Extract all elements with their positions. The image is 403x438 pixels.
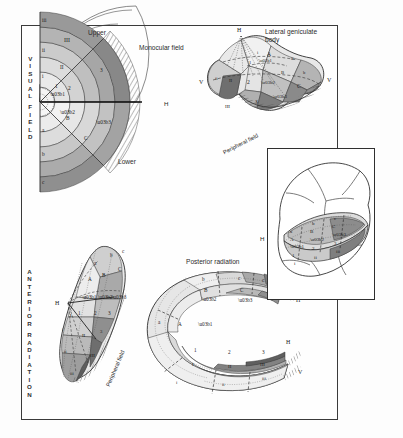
svg-text:A: A bbox=[267, 51, 271, 57]
caption-anterior-radiation: A N T E R I O R R A D I A T I O N bbox=[27, 268, 32, 398]
marker-h-anterior: H bbox=[55, 300, 60, 306]
marker-v-lgb-right: V bbox=[327, 77, 332, 83]
ar-letter: N bbox=[27, 391, 31, 398]
svg-text:\u03b1: \u03b1 bbox=[259, 58, 272, 63]
marker-h-lgb: H bbox=[237, 27, 242, 33]
svg-text:c: c bbox=[122, 248, 125, 254]
ar-letter: T bbox=[28, 283, 32, 290]
vf-letter: L bbox=[28, 92, 32, 99]
marker-v-posterior-bottom: V bbox=[298, 369, 303, 375]
svg-text:1: 1 bbox=[194, 347, 197, 353]
svg-text:b: b bbox=[202, 276, 205, 282]
svg-text:C: C bbox=[297, 83, 301, 89]
vf-letter: F bbox=[28, 103, 32, 110]
svg-text:iii: iii bbox=[262, 376, 267, 381]
svg-text:2: 2 bbox=[228, 349, 231, 355]
ar-letter: A bbox=[27, 268, 31, 275]
svg-text:\u03b3: \u03b3 bbox=[96, 119, 111, 125]
svg-text:2: 2 bbox=[94, 310, 97, 316]
svg-text:\u03b1: \u03b1 bbox=[198, 321, 213, 327]
vf-letter: L bbox=[28, 126, 32, 133]
vf-letter: D bbox=[28, 133, 32, 140]
ar-letter: O bbox=[27, 383, 32, 390]
svg-text:III: III bbox=[90, 353, 95, 358]
svg-text:iii: iii bbox=[42, 17, 47, 23]
svg-text:3: 3 bbox=[108, 310, 111, 316]
svg-text:b: b bbox=[42, 151, 45, 157]
vf-letter: U bbox=[28, 77, 32, 84]
label-upper: Upper bbox=[88, 29, 106, 37]
ar-letter: O bbox=[27, 312, 32, 319]
marker-v-lgb-left: V bbox=[199, 79, 204, 85]
vf-letter: E bbox=[28, 118, 32, 125]
svg-text:II: II bbox=[60, 64, 64, 70]
svg-text:A: A bbox=[88, 276, 92, 282]
svg-text:A: A bbox=[290, 237, 294, 242]
vf-letter: I bbox=[29, 111, 31, 118]
ar-letter: N bbox=[27, 275, 31, 282]
svg-text:\u03b2: \u03b2 bbox=[261, 80, 275, 85]
svg-text:II: II bbox=[228, 364, 232, 369]
ar-letter: R bbox=[27, 320, 31, 327]
svg-text:\u03b2: \u03b2 bbox=[98, 294, 113, 300]
lateral-geniculate-diagram: A ii b C B i 1 \u03b1 2 \u03b2 II ii III… bbox=[203, 30, 333, 150]
svg-text:3: 3 bbox=[100, 67, 103, 73]
svg-text:iii: iii bbox=[336, 249, 341, 254]
ar-letter: A bbox=[27, 339, 31, 346]
svg-text:III: III bbox=[64, 37, 70, 43]
svg-text:\u03b2: \u03b2 bbox=[310, 237, 324, 242]
svg-text:II: II bbox=[229, 78, 233, 83]
marker-h-visual-field: H bbox=[164, 100, 168, 107]
svg-text:II: II bbox=[82, 333, 86, 338]
svg-text:III: III bbox=[225, 104, 230, 109]
svg-text:III: III bbox=[260, 362, 265, 367]
vf-letter: A bbox=[28, 85, 32, 92]
svg-text:B: B bbox=[102, 272, 106, 278]
label-lateral-geniculate-body: Lateral geniculate body bbox=[265, 28, 325, 44]
svg-text:\u03b3: \u03b3 bbox=[112, 294, 127, 300]
pr-peripheral-hatch bbox=[288, 352, 300, 364]
svg-text:C: C bbox=[240, 287, 244, 293]
svg-text:C: C bbox=[118, 266, 122, 272]
svg-text:\u03b3: \u03b3 bbox=[332, 232, 346, 237]
svg-text:\u03b3: \u03b3 bbox=[238, 297, 253, 303]
svg-text:B: B bbox=[204, 287, 208, 293]
ar-letter: R bbox=[27, 298, 31, 305]
vf-letter: I bbox=[29, 62, 31, 69]
svg-text:B: B bbox=[281, 70, 284, 75]
svg-text:C: C bbox=[84, 135, 88, 141]
ar-letter: I bbox=[29, 353, 31, 360]
svg-text:1: 1 bbox=[55, 83, 58, 89]
svg-text:3: 3 bbox=[255, 99, 258, 105]
visual-cortex-inset: a b c A B C \u03b1 \u03b2 \u03b3 1 2 3 i… bbox=[267, 148, 375, 300]
marker-h-posterior-bottom: H bbox=[286, 339, 291, 345]
vf-letter: S bbox=[28, 70, 32, 77]
svg-text:\u03b1: \u03b1 bbox=[82, 294, 97, 300]
svg-text:\u03b2: \u03b2 bbox=[202, 296, 217, 302]
svg-text:2: 2 bbox=[247, 79, 250, 85]
svg-text:\u03b1: \u03b1 bbox=[50, 91, 65, 97]
svg-text:b: b bbox=[110, 252, 113, 258]
svg-text:2: 2 bbox=[68, 85, 71, 91]
ar-letter: I bbox=[29, 376, 31, 383]
ar-letter: I bbox=[29, 305, 31, 312]
svg-text:B: B bbox=[66, 115, 70, 121]
marker-h-cortex: H bbox=[260, 235, 264, 242]
ar-letter: D bbox=[27, 346, 31, 353]
ar-letter: E bbox=[27, 290, 31, 297]
caption-visual-field: V I S U A L F I E L D bbox=[28, 55, 32, 140]
svg-text:\u03b2: \u03b2 bbox=[60, 109, 75, 115]
ar-letter: T bbox=[28, 368, 32, 375]
svg-text:1: 1 bbox=[78, 310, 81, 316]
svg-text:3: 3 bbox=[262, 349, 265, 355]
svg-text:\u03b1: \u03b1 bbox=[290, 244, 304, 249]
ar-letter: A bbox=[27, 361, 31, 368]
svg-text:i: i bbox=[176, 380, 178, 385]
ar-letter: R bbox=[27, 331, 31, 338]
label-lower: Lower bbox=[118, 158, 136, 166]
diagram-page: iii ii i a b c III II 1 2 3 B C \u03b2 \… bbox=[0, 0, 403, 438]
anterior-radiation-diagram: a b c A B C \u03b1 \u03b2 \u03b3 1 2 3 I… bbox=[52, 243, 147, 388]
label-monocular-field: Monocular field bbox=[139, 44, 185, 52]
svg-text:ii: ii bbox=[42, 47, 45, 53]
svg-text:\u03b3: \u03b3 bbox=[273, 94, 287, 99]
